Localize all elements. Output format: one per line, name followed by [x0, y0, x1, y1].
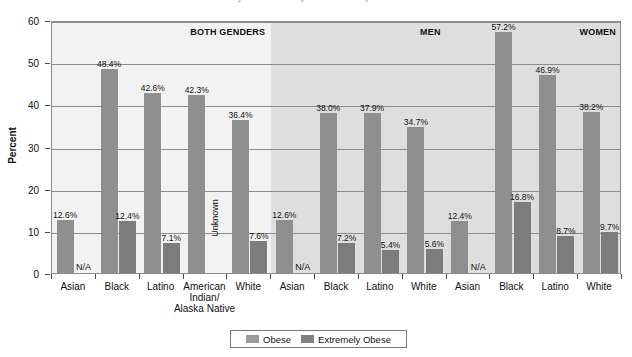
bar-obese [276, 220, 293, 273]
obesity-bar-chart: Obesity Prevalence by Race/Ethnicity and… [0, 0, 632, 357]
chart-title-sliver: Obesity Prevalence by Race/Ethnicity and… [0, 0, 632, 10]
bar-value-label-obese: 36.4% [228, 110, 252, 120]
bar-value-label-obese: 37.9% [360, 103, 384, 113]
bar-obese [539, 75, 556, 273]
x-tick-mark [270, 274, 271, 279]
bar-obese [495, 32, 512, 273]
gridline-60 [52, 22, 620, 23]
x-tick-mark [51, 274, 52, 279]
plot-area: BOTH GENDERSMENWOMEN 12.6%N/A48.4%12.4%4… [51, 21, 621, 274]
legend-label-extremely-obese: Extremely Obese [318, 334, 391, 345]
bar-value-label-obese: 12.6% [272, 210, 296, 220]
legend-swatch-obese-icon [246, 335, 259, 343]
bar-value-label-obese: 42.6% [141, 83, 165, 93]
x-cat-label-line: Indian/ [164, 292, 244, 303]
bar-obese [451, 221, 468, 273]
legend-swatch-extremely-obese-icon [301, 335, 314, 343]
y-tick-mark [45, 105, 50, 106]
legend-item-obese: Obese [246, 334, 291, 345]
group-label-men: MEN [420, 27, 441, 37]
bar-obese [144, 93, 161, 273]
x-tick-mark [314, 274, 315, 279]
y-tick-label: 0 [15, 269, 39, 280]
bar-value-label-extremely-obese: 7.2% [337, 233, 356, 243]
x-tick-mark [446, 274, 447, 279]
bar-extremely-obese [382, 250, 399, 273]
bar-extremely-obese [119, 221, 136, 273]
x-cat-label-line: Alaska Native [164, 303, 244, 314]
x-tick-mark [183, 274, 184, 279]
bar-missing-label-na: N/A [471, 262, 486, 272]
chart-legend: Obese Extremely Obese [230, 330, 407, 348]
bar-value-label-obese: 34.7% [404, 117, 428, 127]
bar-value-label-extremely-obese: 7.6% [249, 231, 268, 241]
y-tick-label: 40 [15, 100, 39, 111]
y-tick-mark [45, 274, 50, 275]
bar-obese [407, 127, 424, 273]
bar-extremely-obese [250, 241, 267, 273]
legend-label-obese: Obese [263, 334, 291, 345]
group-label-women: WOMEN [580, 27, 617, 37]
bar-obese [188, 95, 205, 273]
bar-obese [320, 113, 337, 273]
y-tick-label: 50 [15, 58, 39, 69]
x-tick-mark [489, 274, 490, 279]
bar-value-label-obese: 12.6% [53, 210, 77, 220]
group-label-both-genders: BOTH GENDERS [190, 27, 265, 37]
x-tick-mark [358, 274, 359, 279]
bar-value-label-extremely-obese: 12.4% [115, 211, 139, 221]
y-tick-label: 20 [15, 184, 39, 195]
bar-extremely-obese [338, 243, 355, 273]
bar-value-label-obese: 48.4% [97, 59, 121, 69]
y-tick-mark [45, 21, 50, 22]
legend-item-extremely-obese: Extremely Obese [301, 334, 391, 345]
bar-value-label-obese: 46.9% [535, 65, 559, 75]
bar-extremely-obese [557, 236, 574, 273]
x-tick-mark [533, 274, 534, 279]
y-tick-label: 30 [15, 142, 39, 153]
bar-value-label-extremely-obese: 8.7% [556, 226, 575, 236]
x-tick-mark [226, 274, 227, 279]
bar-value-label-obese: 42.3% [185, 85, 209, 95]
bar-value-label-extremely-obese: 5.4% [381, 240, 400, 250]
x-tick-mark [402, 274, 403, 279]
y-tick-mark [45, 148, 50, 149]
bar-value-label-extremely-obese: 5.6% [425, 239, 444, 249]
bar-extremely-obese [601, 232, 618, 273]
bar-value-label-extremely-obese: 7.1% [162, 233, 181, 243]
y-tick-mark [45, 63, 50, 64]
bar-value-label-obese: 12.4% [448, 211, 472, 221]
bar-missing-label-na: N/A [76, 262, 91, 272]
bar-value-label-obese: 38.2% [579, 102, 603, 112]
bar-missing-label-na: N/A [295, 262, 310, 272]
x-cat-label: White [559, 281, 632, 292]
x-tick-mark [139, 274, 140, 279]
bar-value-label-extremely-obese: 9.7% [600, 222, 619, 232]
y-tick-mark [45, 232, 50, 233]
bar-obese [583, 112, 600, 273]
bar-obese [364, 113, 381, 273]
bar-obese [57, 220, 74, 273]
bar-extremely-obese [426, 249, 443, 273]
bar-extremely-obese [163, 243, 180, 273]
x-tick-mark [95, 274, 96, 279]
y-tick-mark [45, 190, 50, 191]
bar-extremely-obese [514, 202, 531, 273]
y-tick-label: 60 [15, 16, 39, 27]
bar-obese [101, 69, 118, 273]
bar-value-label-obese: 57.2% [492, 22, 516, 32]
bar-value-label-extremely-obese: 16.8% [510, 192, 534, 202]
bar-missing-label-unknown: Unknown [210, 199, 220, 237]
x-tick-mark [621, 274, 622, 279]
bar-obese [232, 120, 249, 273]
y-tick-label: 10 [15, 226, 39, 237]
x-tick-mark [577, 274, 578, 279]
bar-value-label-obese: 38.0% [316, 103, 340, 113]
chart-title-text: Obesity Prevalence by Race/Ethnicity and… [209, 0, 422, 1]
